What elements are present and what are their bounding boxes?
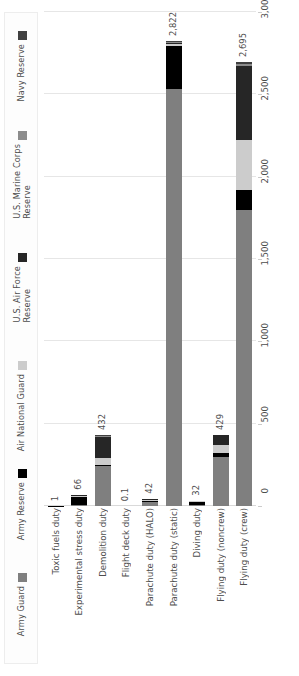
category-axis-label: Experimental stress duty: [74, 508, 84, 616]
chart-figure: Army GuardArmy ReserveAir National Guard…: [0, 0, 299, 676]
bar-group[interactable]: 0.1: [118, 12, 134, 506]
legend-item-label: Navy Reserve: [17, 44, 27, 102]
legend-swatch-icon: [18, 31, 27, 40]
category-axis-label: Flight deck duty: [121, 508, 131, 577]
legend-swatch-icon: [18, 253, 27, 262]
legend-item[interactable]: U.S. Marine Corps Reserve: [5, 131, 39, 249]
bar-group[interactable]: 42: [142, 12, 158, 506]
legend-item[interactable]: Army Reserve: [5, 469, 39, 567]
stacked-bar[interactable]: [213, 435, 229, 506]
category-axis-label: Parachute duty (HALO): [145, 508, 155, 606]
legend-item[interactable]: Navy Reserve: [5, 31, 39, 127]
category-axis-label: Flying duty (crew): [239, 508, 249, 586]
legend-item-label: Army Reserve: [17, 482, 27, 540]
bar-group[interactable]: 1: [48, 12, 64, 506]
value-axis-label: 2,500: [261, 76, 270, 101]
bar-value-label: 2,695: [239, 33, 248, 57]
legend-swatch-icon: [18, 573, 27, 582]
bar-group[interactable]: 432: [95, 12, 111, 506]
bar-segment[interactable]: [166, 89, 182, 506]
bar-group[interactable]: 32: [189, 12, 205, 506]
legend-item-label: Army Guard: [17, 586, 27, 636]
bar-group[interactable]: 66: [71, 12, 87, 506]
category-axis-label: Diving duty: [192, 508, 202, 557]
legend-swatch-icon: [18, 469, 27, 478]
legend-item[interactable]: Air National Guard: [5, 361, 39, 465]
bar-segment[interactable]: [71, 505, 87, 506]
stacked-bar[interactable]: [95, 435, 111, 506]
bar-segment[interactable]: [236, 210, 252, 506]
bar-value-label: 2,822: [169, 12, 178, 36]
value-axis-label: 500: [261, 406, 270, 422]
value-axis-label: 0: [261, 488, 270, 493]
bar-value-label: 42: [145, 483, 154, 494]
category-axis-label: Flying duty (noncrew): [216, 508, 226, 602]
bar-segment[interactable]: [213, 445, 229, 453]
legend-item[interactable]: U.S. Air Force Reserve: [5, 253, 39, 357]
bar-value-label: 1: [51, 496, 60, 501]
value-axis-label: 1,500: [261, 241, 270, 266]
bar-group[interactable]: 429: [213, 12, 229, 506]
bar-value-label: 32: [192, 485, 201, 496]
value-axis-label: 3,000: [261, 0, 270, 19]
bar-value-label: 432: [98, 414, 107, 430]
bar-segment[interactable]: [71, 497, 87, 505]
axis-tick: [258, 424, 262, 425]
axis-tick: [258, 506, 262, 507]
category-axis-label: Parachute duty (static): [169, 508, 179, 606]
bar-segment[interactable]: [236, 66, 252, 140]
bar-segment[interactable]: [236, 190, 252, 210]
value-axis: 05001,0001,5002,0002,5003,000: [258, 12, 299, 512]
value-axis-label: 2,000: [261, 159, 270, 184]
stacked-bar[interactable]: [236, 62, 252, 506]
category-axis-label: Toxic fuels duty: [51, 508, 61, 574]
legend-item-label: U.S. Marine Corps Reserve: [13, 144, 32, 219]
bar-series-container: 1664320.1422,822324292,695: [44, 12, 256, 506]
legend-swatch-icon: [18, 361, 27, 370]
stacked-bar[interactable]: [166, 41, 182, 506]
chart-legend: Army GuardArmy ReserveAir National Guard…: [4, 12, 38, 664]
legend-item-label: U.S. Air Force Reserve: [13, 266, 32, 322]
category-axis: Toxic fuels dutyExperimental stress duty…: [44, 508, 256, 676]
bar-segment[interactable]: [189, 505, 205, 506]
bar-value-label: 429: [216, 414, 225, 430]
bar-segment[interactable]: [236, 140, 252, 189]
stacked-bar[interactable]: [142, 499, 158, 506]
bar-segment[interactable]: [213, 457, 229, 506]
bar-value-label: 0.1: [121, 488, 130, 501]
bar-group[interactable]: 2,822: [166, 12, 182, 506]
bar-segment[interactable]: [95, 466, 111, 506]
legend-item[interactable]: Army Guard: [5, 573, 39, 661]
plot-area: 1664320.1422,822324292,695: [44, 12, 256, 506]
category-axis-label: Demolition duty: [98, 508, 108, 577]
bar-value-label: 66: [74, 479, 83, 490]
value-axis-label: 1,000: [261, 323, 270, 348]
bar-group[interactable]: 2,695: [236, 12, 252, 506]
stacked-bar[interactable]: [189, 501, 205, 506]
legend-item-label: Air National Guard: [17, 374, 27, 451]
bar-segment[interactable]: [95, 437, 111, 458]
stacked-bar[interactable]: [71, 495, 87, 506]
bar-segment[interactable]: [213, 435, 229, 444]
bar-segment[interactable]: [166, 46, 182, 89]
legend-swatch-icon: [18, 131, 27, 140]
bar-segment[interactable]: [142, 502, 158, 507]
